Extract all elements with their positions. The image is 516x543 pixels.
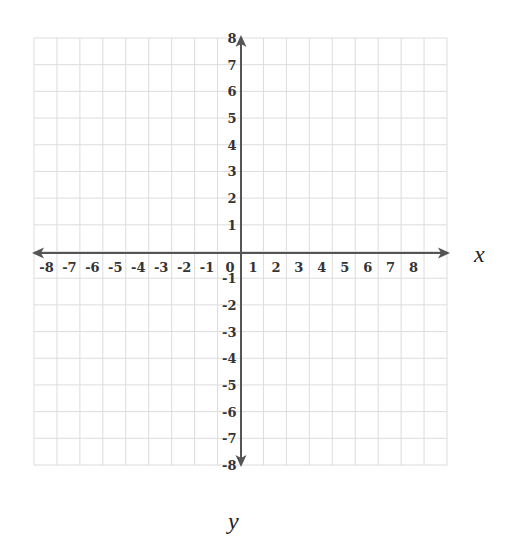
x-tick-label: -6: [85, 260, 99, 275]
x-tick-label: 5: [340, 260, 349, 275]
x-tick-label: -7: [62, 260, 76, 275]
y-tick-label: -1: [222, 271, 236, 286]
y-tick-label: -6: [222, 405, 236, 420]
coordinate-plane: -8-7-6-5-4-3-2-1012345678 87654321-1-2-3…: [0, 0, 516, 543]
x-tick-label: 6: [363, 260, 372, 275]
y-tick-label: -3: [222, 325, 236, 340]
x-tick-label: 4: [317, 260, 326, 275]
y-tick-label: 4: [227, 138, 236, 153]
x-tick-label: -4: [131, 260, 145, 275]
x-tick-label: -1: [200, 260, 214, 275]
y-tick-label: 5: [227, 111, 236, 126]
x-tick-label: 8: [409, 260, 418, 275]
y-tick-label: -8: [222, 458, 236, 473]
y-tick-label: -2: [222, 298, 236, 313]
x-tick-label: -2: [177, 260, 191, 275]
y-tick-label: -5: [222, 378, 236, 393]
y-tick-label: 7: [227, 58, 236, 73]
y-tick-label: 3: [227, 164, 236, 179]
y-tick-label: 6: [227, 84, 236, 99]
x-tick-label: 7: [386, 260, 395, 275]
x-tick-label: 2: [271, 260, 280, 275]
y-tick-label: -7: [222, 431, 236, 446]
x-tick-label: -5: [108, 260, 122, 275]
y-tick-label: 2: [227, 191, 236, 206]
x-tick-label: -3: [154, 260, 168, 275]
x-tick-label: 3: [294, 260, 303, 275]
y-tick-label: 1: [227, 218, 236, 233]
x-tick-label: -8: [39, 260, 53, 275]
x-axis-label: x: [473, 241, 485, 267]
y-tick-label: -4: [222, 351, 236, 366]
y-axis-label: y: [226, 508, 239, 534]
x-tick-label: 1: [248, 260, 257, 275]
y-tick-label: 8: [227, 31, 236, 46]
